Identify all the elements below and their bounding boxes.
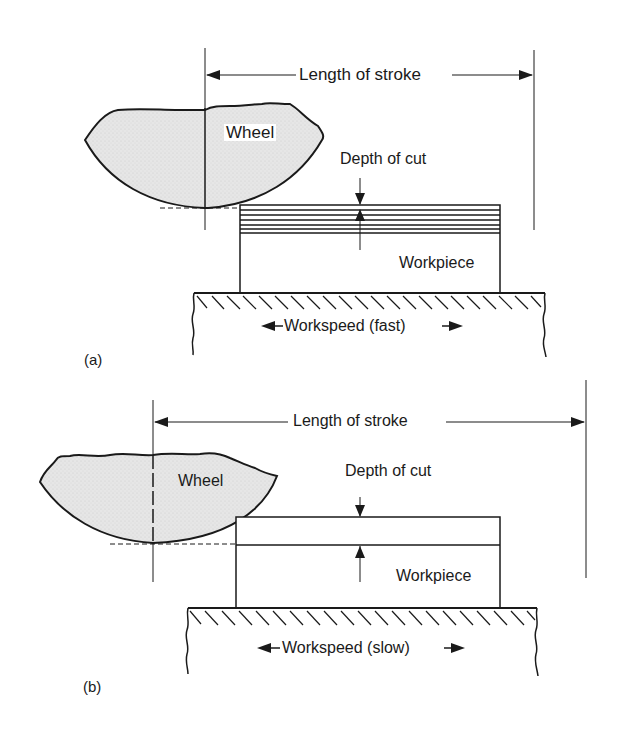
table-break-left-b [186, 608, 188, 674]
workspeed-label-b: Workspeed (slow) [282, 640, 410, 656]
table-break-left-a [192, 293, 194, 355]
grinding-wheel [85, 103, 323, 208]
panel-label-a: (a) [84, 352, 102, 367]
panel-a [85, 48, 546, 357]
wheel-label-b: Wheel [178, 473, 223, 489]
wheel-label-a: Wheel [224, 124, 276, 141]
depth-of-cut-label-b: Depth of cut [345, 463, 431, 479]
table-break-right-a [543, 293, 546, 357]
stroke-length-label-a: Length of stroke [297, 66, 423, 83]
workpiece-label-b: Workpiece [396, 568, 471, 584]
panel-label-b: (b) [83, 679, 101, 694]
table-break-right-b [535, 608, 538, 676]
workspeed-label-a: Workspeed (fast) [284, 318, 406, 334]
depth-of-cut-label-a: Depth of cut [340, 151, 426, 167]
workpiece-a [240, 205, 500, 293]
table-hatching-b [190, 611, 535, 625]
stroke-length-label-b: Length of stroke [293, 413, 408, 429]
table-hatching-a [197, 296, 541, 309]
workpiece-label-a: Workpiece [399, 255, 474, 271]
workpiece-b [236, 517, 500, 608]
